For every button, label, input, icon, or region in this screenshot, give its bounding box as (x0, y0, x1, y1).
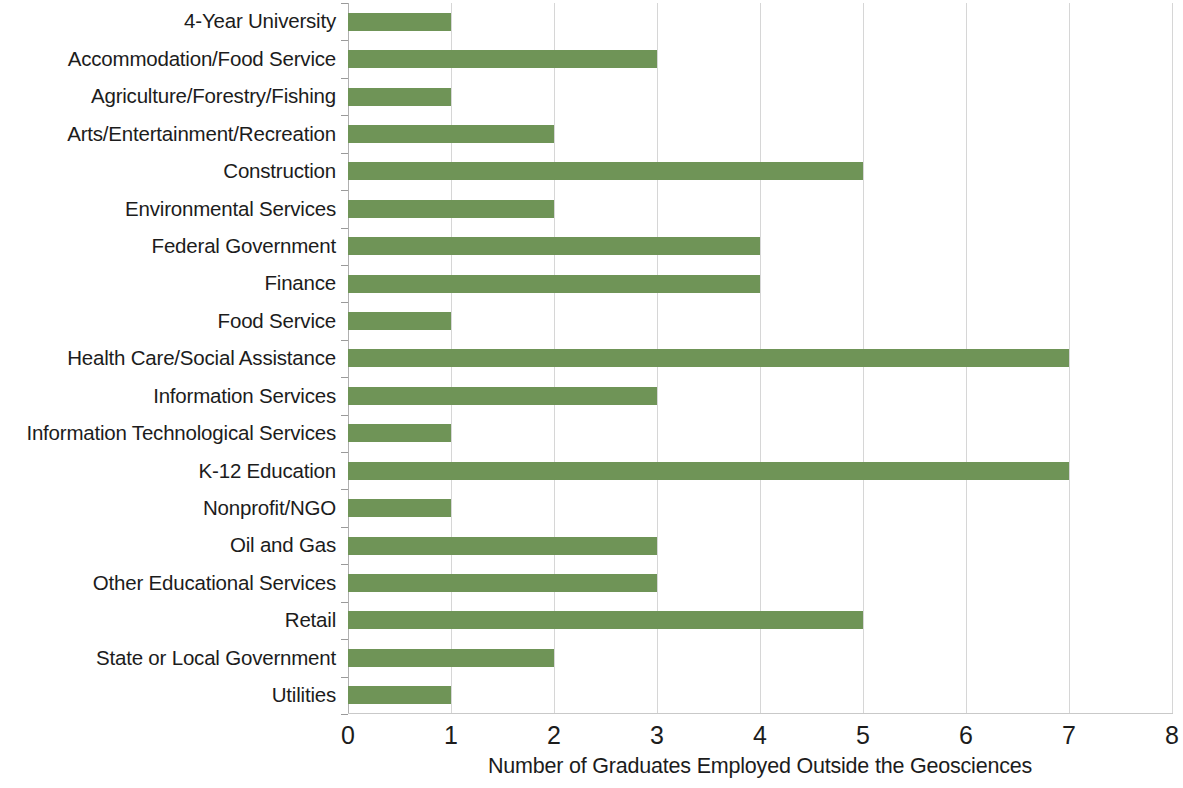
category-tick (341, 714, 348, 715)
bar[interactable] (348, 387, 657, 405)
bar[interactable] (348, 88, 451, 106)
bar[interactable] (348, 462, 1069, 480)
bar[interactable] (348, 125, 554, 143)
bar-row (348, 40, 1172, 77)
bar-row (348, 228, 1172, 265)
x-tick-label: 6 (959, 718, 973, 752)
category-label: Health Care/Social Assistance (67, 340, 336, 377)
bar[interactable] (348, 611, 863, 629)
category-label: Nonprofit/NGO (203, 489, 336, 526)
category-label: Information Services (153, 377, 336, 414)
bar-row (348, 677, 1172, 714)
x-tick-label: 8 (1165, 718, 1179, 752)
bar[interactable] (348, 50, 657, 68)
category-label: Oil and Gas (230, 527, 336, 564)
gridline (1172, 3, 1173, 714)
bar-rows (348, 3, 1172, 714)
bar-row (348, 377, 1172, 414)
category-label: Agriculture/Forestry/Fishing (91, 78, 336, 115)
bar-row (348, 639, 1172, 676)
x-tick-label: 5 (856, 718, 870, 752)
category-label: Utilities (272, 677, 336, 714)
bar[interactable] (348, 13, 451, 31)
bar[interactable] (348, 686, 451, 704)
bar[interactable] (348, 275, 760, 293)
bar-row (348, 415, 1172, 452)
bar[interactable] (348, 162, 863, 180)
bar[interactable] (348, 574, 657, 592)
bar[interactable] (348, 424, 451, 442)
category-label: State or Local Government (96, 639, 336, 676)
bar[interactable] (348, 312, 451, 330)
bar-row (348, 115, 1172, 152)
x-tick-label: 4 (753, 718, 767, 752)
bar[interactable] (348, 349, 1069, 367)
bar-chart: 4-Year UniversityAccommodation/Food Serv… (0, 0, 1183, 788)
bar-row (348, 153, 1172, 190)
category-label: Retail (285, 602, 336, 639)
bar-row (348, 3, 1172, 40)
category-label: Other Educational Services (93, 564, 336, 601)
category-label: Arts/Entertainment/Recreation (67, 115, 336, 152)
x-tick-label: 0 (341, 718, 355, 752)
bar-row (348, 489, 1172, 526)
x-tick-label: 1 (444, 718, 458, 752)
category-label: Finance (264, 265, 336, 302)
bar[interactable] (348, 200, 554, 218)
category-label: Information Technological Services (26, 415, 336, 452)
bar[interactable] (348, 237, 760, 255)
category-axis-labels: 4-Year UniversityAccommodation/Food Serv… (0, 3, 348, 714)
bar-row (348, 564, 1172, 601)
category-label: 4-Year University (184, 3, 336, 40)
bar-row (348, 302, 1172, 339)
x-tick-label: 3 (650, 718, 664, 752)
category-label: Food Service (218, 302, 336, 339)
category-label: Environmental Services (125, 190, 336, 227)
bar-row (348, 190, 1172, 227)
bar-row (348, 452, 1172, 489)
bar[interactable] (348, 649, 554, 667)
bar-row (348, 265, 1172, 302)
x-axis-title: Number of Graduates Employed Outside the… (348, 754, 1172, 779)
category-label: Construction (223, 153, 336, 190)
category-label: Federal Government (152, 228, 336, 265)
bar[interactable] (348, 537, 657, 555)
bar[interactable] (348, 499, 451, 517)
bar-row (348, 602, 1172, 639)
x-axis-line (348, 713, 1173, 714)
bar-row (348, 78, 1172, 115)
bar-row (348, 340, 1172, 377)
bar-row (348, 527, 1172, 564)
category-label: K-12 Education (199, 452, 336, 489)
x-tick-label: 7 (1062, 718, 1076, 752)
plot-area (348, 3, 1172, 714)
category-label: Accommodation/Food Service (68, 40, 336, 77)
x-axis-tick-labels: 012345678 (348, 718, 1172, 752)
x-tick-label: 2 (547, 718, 561, 752)
